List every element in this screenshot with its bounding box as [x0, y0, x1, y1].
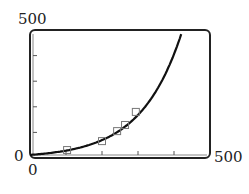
- plot-frame: [30, 30, 210, 158]
- x-min-label: 0: [28, 163, 38, 178]
- y-max-label: 500: [18, 12, 47, 27]
- fit-curve: [30, 34, 181, 155]
- data-points: [64, 108, 140, 153]
- x-max-label: 500: [214, 150, 243, 165]
- y-min-label: 0: [14, 149, 24, 164]
